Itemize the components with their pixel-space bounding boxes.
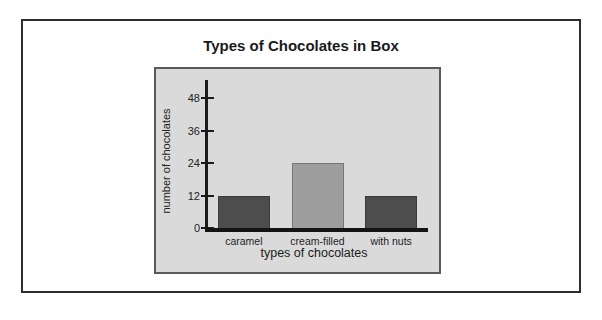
y-tick-label: 36 bbox=[162, 125, 200, 137]
y-tick-label: 24 bbox=[162, 157, 200, 169]
x-axis-label: types of chocolates bbox=[260, 246, 367, 260]
y-tick-label: 12 bbox=[162, 190, 200, 202]
chart-title: Types of Chocolates in Box bbox=[23, 37, 579, 54]
y-tick-label: 0 bbox=[162, 222, 200, 234]
document-frame: Types of Chocolates in Box number of cho… bbox=[21, 19, 581, 293]
chart-panel: number of chocolates 012243648 caramelcr… bbox=[154, 67, 441, 274]
x-axis-line bbox=[205, 228, 428, 232]
y-axis-line bbox=[205, 80, 208, 230]
y-tick-label: 48 bbox=[162, 92, 200, 104]
plot-area: number of chocolates 012243648 caramelcr… bbox=[156, 69, 439, 272]
bar-with-nuts bbox=[365, 196, 417, 230]
bar-cream-filled bbox=[292, 163, 344, 230]
bar-caramel bbox=[218, 196, 270, 230]
